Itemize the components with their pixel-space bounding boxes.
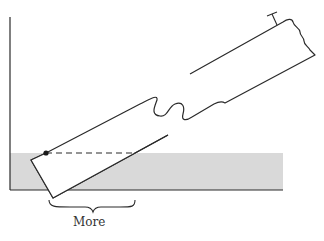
curly-brace xyxy=(49,200,135,212)
more-label: More xyxy=(73,215,105,229)
board-leaning-diagram xyxy=(0,0,324,241)
tick-marker-cap xyxy=(267,12,277,16)
tick-marker-stem xyxy=(272,14,277,25)
contact-point xyxy=(43,150,48,155)
upper-board-piece xyxy=(190,19,315,117)
